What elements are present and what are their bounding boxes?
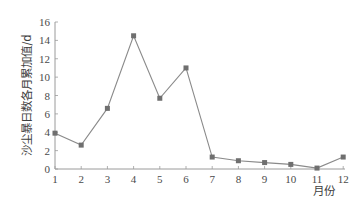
data-point-marker xyxy=(79,143,84,148)
y-tick-label: 2 xyxy=(45,145,51,157)
x-tick-label: 12 xyxy=(338,173,349,185)
data-point-marker xyxy=(341,155,346,160)
x-tick-label: 9 xyxy=(262,173,268,185)
y-tick-label: 8 xyxy=(45,90,51,102)
y-tick-label: 4 xyxy=(45,126,51,138)
data-point-marker xyxy=(105,106,110,111)
y-tick-label: 6 xyxy=(45,108,51,120)
data-point-marker xyxy=(236,158,241,163)
x-tick-label: 8 xyxy=(236,173,242,185)
series-markers xyxy=(53,33,346,170)
y-tick-label: 12 xyxy=(39,53,50,65)
x-tick-label: 6 xyxy=(183,173,189,185)
x-axis-title: 月份 xyxy=(313,184,336,198)
line-chart: 0246810121416 123456789101112 沙尘暴日数各月累加值… xyxy=(0,0,363,211)
series-line xyxy=(55,36,343,168)
y-tick-label: 10 xyxy=(39,71,51,83)
x-tick-label: 7 xyxy=(209,173,215,185)
data-point-marker xyxy=(288,162,293,167)
y-axis-title: 沙尘暴日数各月累加值/d xyxy=(20,34,34,155)
data-point-marker xyxy=(53,131,58,136)
y-tick-label: 16 xyxy=(39,16,51,28)
x-tick-label: 2 xyxy=(78,173,84,185)
data-point-marker xyxy=(157,96,162,101)
data-point-marker xyxy=(262,160,267,165)
data-point-marker xyxy=(210,155,215,160)
x-tick-label: 4 xyxy=(131,173,137,185)
data-point-marker xyxy=(315,166,320,171)
y-tick-label: 0 xyxy=(45,163,51,175)
y-tick-label: 14 xyxy=(39,34,51,46)
data-point-marker xyxy=(184,65,189,70)
x-tick-label: 10 xyxy=(285,173,297,185)
x-tick-label: 3 xyxy=(105,173,111,185)
x-tick-label: 5 xyxy=(157,173,163,185)
data-point-marker xyxy=(131,33,136,38)
x-tick-label: 1 xyxy=(52,173,58,185)
